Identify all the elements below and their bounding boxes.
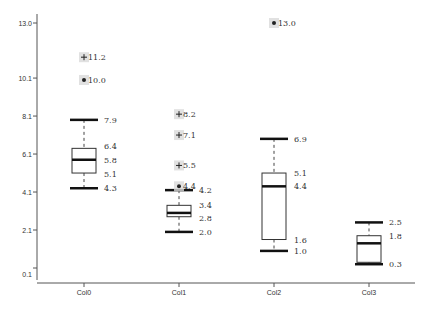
outlier-label: 13.0 <box>278 19 296 28</box>
outlier-point: 13.0 <box>269 18 296 28</box>
iqr-box <box>262 173 286 239</box>
value-label-whisker-high: 4.2 <box>199 186 212 195</box>
plot-area: 7.96.45.85.14.311.210.04.23.42.82.08.27.… <box>70 18 402 269</box>
value-label-whisker-low: 2.0 <box>199 228 212 237</box>
y-axis: 13.010.18.16.14.12.10.1 <box>18 14 37 280</box>
x-category-label: Col0 <box>77 289 92 296</box>
box-col1: 4.23.42.82.08.27.15.54.4 <box>165 109 212 237</box>
value-label-q3: 5.1 <box>294 169 307 178</box>
boxplot-chart: 13.010.18.16.14.12.10.1 Col0Col1Col2Col3… <box>0 0 429 311</box>
iqr-box <box>167 205 191 216</box>
value-label-whisker-high: 6.9 <box>294 135 307 144</box>
outlier-point: 4.4 <box>174 181 196 191</box>
box-col3: 2.51.80.3 <box>355 218 402 269</box>
y-tick-label: 13.0 <box>18 20 32 27</box>
outlier-point: 8.2 <box>174 109 196 119</box>
outlier-label: 10.0 <box>88 76 106 85</box>
value-label-median: 5.8 <box>104 156 117 165</box>
y-tick-label: 10.1 <box>18 75 32 82</box>
y-tick-label: 2.1 <box>22 227 32 234</box>
dot-marker-icon <box>272 21 276 25</box>
value-label-q3: 1.8 <box>389 232 402 241</box>
y-tick-label: 4.1 <box>22 189 32 196</box>
value-label-whisker-high: 2.5 <box>389 218 402 227</box>
value-label-median: 4.4 <box>294 182 307 191</box>
value-label-whisker-low: 0.3 <box>389 260 402 269</box>
value-label-q1: 1.6 <box>294 236 307 245</box>
outlier-point: 5.5 <box>174 160 196 170</box>
outlier-point: 11.2 <box>79 52 106 62</box>
x-category-label: Col1 <box>172 289 187 296</box>
outlier-label: 7.1 <box>183 131 196 140</box>
x-category-label: Col3 <box>362 289 377 296</box>
dot-marker-icon <box>82 78 86 82</box>
outlier-label: 11.2 <box>88 53 106 62</box>
value-label-q1: 2.8 <box>199 214 212 223</box>
y-tick-label: 6.1 <box>22 151 32 158</box>
value-label-q3: 6.4 <box>104 142 117 151</box>
outlier-point: 10.0 <box>79 75 106 85</box>
x-axis: Col0Col1Col2Col3 <box>37 283 415 296</box>
y-tick-label: 0.1 <box>22 271 32 278</box>
outlier-label: 4.4 <box>183 182 196 191</box>
outlier-label: 5.5 <box>183 161 196 170</box>
y-tick-label: 8.1 <box>22 113 32 120</box>
value-label-whisker-high: 7.9 <box>104 116 117 125</box>
value-label-whisker-low: 4.3 <box>104 184 117 193</box>
dot-marker-icon <box>177 184 181 188</box>
box-col0: 7.96.45.85.14.311.210.0 <box>70 52 117 193</box>
value-label-q1: 5.1 <box>104 170 117 179</box>
value-label-q3: 3.4 <box>199 201 212 210</box>
x-category-label: Col2 <box>267 289 282 296</box>
value-label-whisker-low: 1.0 <box>294 247 307 256</box>
box-col2: 6.95.14.41.61.013.0 <box>260 18 307 256</box>
iqr-box <box>357 236 381 263</box>
outlier-point: 7.1 <box>174 130 196 140</box>
outlier-label: 8.2 <box>183 110 196 119</box>
